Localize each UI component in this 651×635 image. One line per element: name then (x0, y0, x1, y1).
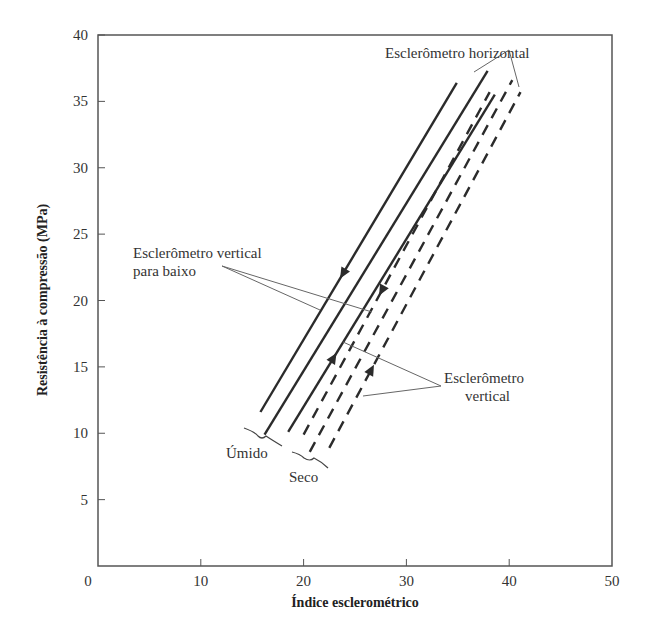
annotation-vertical-down-line1: Esclerômetro vertical (133, 245, 262, 261)
x-axis-title: Índice esclerométrico (291, 594, 419, 610)
leader-vertical-down (222, 266, 372, 312)
x-tick-label: 20 (296, 573, 311, 589)
annotation-wet: Úmido (226, 445, 268, 461)
plot-frame (98, 35, 612, 566)
y-tick-label: 30 (73, 160, 88, 176)
x-axis-ticks: 01020304050 (84, 559, 619, 589)
y-tick-label: 20 (73, 293, 88, 309)
x-tick-label: 40 (502, 573, 517, 589)
annotation-vertical-line1: Esclerômetro (444, 370, 524, 386)
y-tick-label: 10 (73, 425, 88, 441)
y-tick-label: 40 (73, 27, 88, 43)
x-tick-label: 0 (84, 573, 92, 589)
annotation-dry: Seco (289, 469, 318, 485)
leader-lines (222, 50, 519, 396)
y-tick-label: 35 (73, 93, 88, 109)
annotation-vertical-down-line2: para baixo (133, 263, 196, 279)
y-tick-label: 5 (81, 492, 89, 508)
arrow-down-icon (379, 284, 389, 296)
y-tick-label: 15 (73, 359, 88, 375)
y-axis-ticks: 510152025303540 (73, 27, 105, 508)
x-tick-label: 30 (399, 573, 414, 589)
chart-canvas: 510152025303540 01020304050 Esclerômetro… (0, 0, 651, 635)
leader-vertical (343, 342, 441, 396)
brace-dry (292, 452, 328, 468)
x-tick-label: 50 (605, 573, 620, 589)
annotation-vertical-line2: vertical (465, 388, 510, 404)
y-tick-label: 25 (73, 226, 88, 242)
x-tick-label: 10 (193, 573, 208, 589)
y-axis-title: Resistência à compressão (MPa) (35, 204, 51, 397)
brace-wet (244, 428, 282, 446)
annotation-horizontal: Esclerômetro horizontal (385, 45, 530, 61)
